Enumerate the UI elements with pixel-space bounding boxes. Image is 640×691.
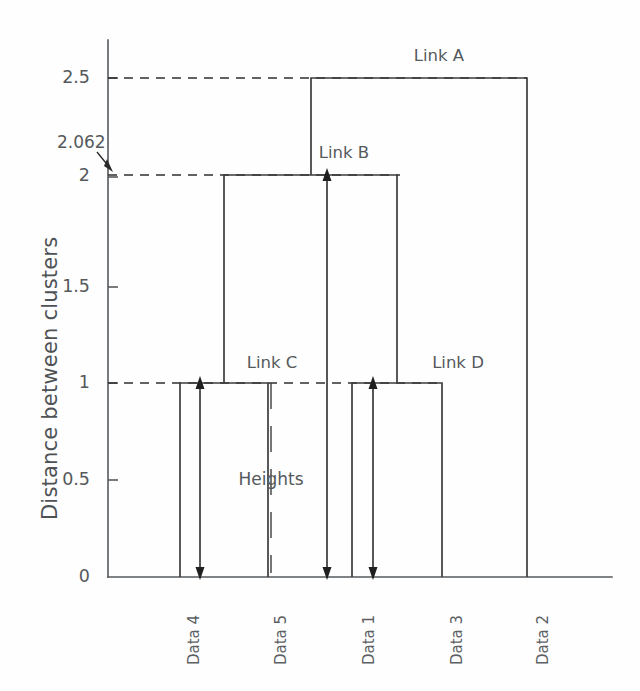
dendrogram-figure: 2.5 2 1.5 1 0.5 0 2.062 Link A Link B Li… xyxy=(0,0,640,691)
link-b-label: Link B xyxy=(264,145,424,162)
y-tick-label-2.5: 2.5 xyxy=(30,69,90,87)
link-b-bracket xyxy=(224,175,397,383)
link-a-label: Link A xyxy=(359,48,519,65)
cut-value-label: 2.062 xyxy=(57,134,106,151)
heights-label: Heights xyxy=(211,471,331,488)
leaf-label-data-3: Data 3 xyxy=(450,615,465,665)
height-arrow-link-b-head-down xyxy=(323,567,332,580)
leaf-label-data-5: Data 5 xyxy=(274,615,289,665)
link-c-label: Link C xyxy=(192,355,352,372)
leaf-label-data-2: Data 2 xyxy=(536,615,551,665)
leaf-label-data-4: Data 4 xyxy=(187,615,202,665)
y-axis-title: Distance between clusters xyxy=(40,237,61,520)
leaf-label-data-1: Data 1 xyxy=(362,615,377,665)
link-d-bracket xyxy=(352,383,442,577)
y-tick-label-2: 2 xyxy=(30,167,90,185)
dendrogram-svg xyxy=(0,0,640,691)
link-d-label: Link D xyxy=(378,355,538,372)
y-tick-label-0: 0 xyxy=(30,568,90,586)
height-arrow-link-c-head-down xyxy=(196,567,205,580)
height-arrow-link-d-head-down xyxy=(369,567,378,580)
